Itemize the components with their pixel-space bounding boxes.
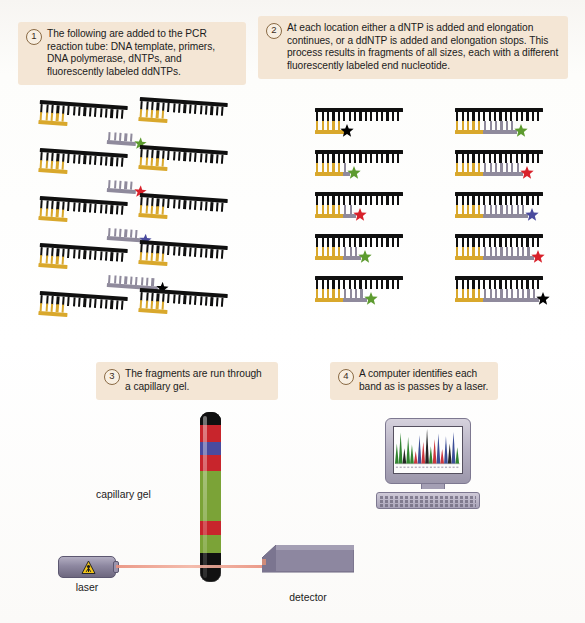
nucleotide-tooth [105,300,108,309]
figure-canvas: 1 The following are added to the PCR rea… [0,0,585,623]
nucleotide-tooth [495,247,497,256]
nucleotide-tooth [511,121,513,130]
nucleotide-tooth [73,297,76,306]
nucleotide-tooth [210,154,213,163]
nucleotide-tooth [89,107,92,116]
nucleotide-tooth [510,238,512,247]
nucleotide-tooth [456,121,458,130]
nucleotide-tooth [121,158,124,167]
nucleotide-tooth [221,107,224,116]
nucleotide-tooth [78,298,81,307]
nucleotide-tooth [322,247,324,256]
nucleotide-tooth [527,247,529,256]
nucleotide-tooth [489,154,491,163]
nucleotide-tooth [56,161,59,169]
nucleotide-tooth [167,151,170,160]
nucleotide-tooth [365,280,367,289]
nucleotide-tooth [194,105,197,114]
nucleotide-tooth [370,238,372,247]
nucleotide-tooth [338,205,340,214]
nucleotide-tooth [110,109,113,118]
nucleotide-tooth [40,160,43,168]
nucleotide-tooth [505,238,507,247]
nucleotide-tooth [472,205,474,214]
step-text-2: At each location either a dNTP is added … [287,22,560,72]
nucleotide-tooth [472,280,474,289]
strand-backbone [483,214,528,218]
strand-backbone [315,256,344,260]
nucleotide-tooth [178,247,181,256]
nucleotide-tooth [61,162,64,170]
nucleotide-tooth [178,295,181,304]
nucleotide-tooth [472,154,474,163]
nucleotide-tooth [495,163,497,172]
nucleotide-tooth [381,112,383,121]
nucleotide-tooth [495,205,497,214]
nucleotide-tooth [105,109,108,118]
nucleotide-tooth [121,253,124,262]
nucleotide-tooth [370,280,372,289]
nucleotide-tooth [392,196,394,205]
nucleotide-tooth [45,160,48,168]
strand-backbone [483,298,539,302]
nucleotide-tooth [456,112,458,121]
nucleotide-tooth [472,247,474,256]
nucleotide-tooth [350,247,352,256]
nucleotide-tooth [100,251,103,260]
step-number-3: 3 [104,369,120,385]
strand-backbone [455,256,484,260]
nucleotide-tooth [478,238,480,247]
nucleotide-tooth [478,205,480,214]
nucleotide-tooth [145,252,148,260]
nucleotide-tooth [322,196,324,205]
nucleotide-tooth [156,301,159,309]
nucleotide-tooth [316,121,318,130]
strand-backbone [315,214,344,218]
nucleotide-tooth [173,199,176,208]
nucleotide-tooth [343,238,345,247]
nucleotide-tooth [338,154,340,163]
nucleotide-tooth [161,254,164,262]
nucleotide-tooth [354,154,356,163]
nucleotide-tooth [108,275,111,283]
nucleotide-tooth [100,156,103,165]
nucleotide-tooth [67,297,70,306]
nucleotide-tooth [116,252,119,261]
nucleotide-tooth [316,163,318,172]
nucleotide-tooth [386,280,388,289]
nucleotide-tooth [462,247,464,256]
laser-label: laser [58,582,116,593]
nucleotide-tooth [45,303,48,311]
nucleotide-tooth [484,163,486,172]
keyboard[interactable] [376,492,480,509]
nucleotide-tooth [516,280,518,289]
nucleotide-tooth [316,196,318,205]
nucleotide-tooth [483,112,485,121]
nucleotide-tooth [381,238,383,247]
computer-workstation [385,418,480,509]
nucleotide-tooth [45,255,48,263]
nucleotide-tooth [56,304,59,312]
nucleotide-tooth [456,154,458,163]
nucleotide-tooth [359,280,361,289]
nucleotide-tooth [343,154,345,163]
nucleotide-tooth [392,238,394,247]
nucleotide-tooth [67,106,70,115]
nucleotide-tooth [478,280,480,289]
nucleotide-tooth [189,104,192,113]
nucleotide-tooth [397,238,399,247]
nucleotide-tooth [376,238,378,247]
nucleotide-tooth [83,203,86,212]
nucleotide-tooth [316,280,318,289]
nucleotide-tooth [221,250,224,259]
nucleotide-tooth [484,247,486,256]
nucleotide-tooth [119,181,122,189]
nucleotide-tooth [370,196,372,205]
nucleotide-tooth [532,154,534,163]
nucleotide-tooth [151,158,154,166]
nucleotide-tooth [359,154,361,163]
nucleotide-tooth [167,246,170,255]
nucleotide-tooth [45,112,48,120]
nucleotide-tooth [322,121,324,130]
nucleotide-tooth [183,152,186,161]
